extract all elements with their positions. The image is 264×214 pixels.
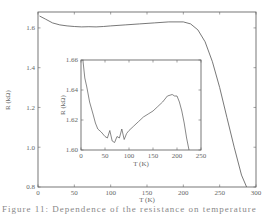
y-tick-label: 1.4 <box>26 64 35 72</box>
x-tick-label: 150 <box>148 152 159 160</box>
y-tick-label: 1.2 <box>26 104 35 112</box>
y-tick-label: 1.66 <box>66 56 79 64</box>
x-tick-label: 100 <box>105 189 116 197</box>
inset-y-axis-label: R (kΩ) <box>59 94 67 114</box>
x-tick-label: 200 <box>178 189 189 197</box>
chart-figure: 050100150200250300 0.81.01.21.41.6 T (K)… <box>0 0 264 214</box>
y-tick-label: 1.60 <box>66 146 79 154</box>
y-tick-label: 0.8 <box>26 183 35 191</box>
x-tick-label: 50 <box>102 152 110 160</box>
inset-x-axis-label: T (K) <box>133 160 149 168</box>
x-tick-label: 0 <box>36 189 40 197</box>
x-tick-label: 50 <box>71 189 79 197</box>
y-tick-label: 1.62 <box>66 116 79 124</box>
y-tick-label: 1.0 <box>26 144 35 152</box>
x-tick-label: 200 <box>172 152 183 160</box>
inset-background <box>81 60 201 150</box>
y-tick-label: 1.64 <box>66 86 79 94</box>
main-y-axis-label: R (kΩ) <box>4 89 12 109</box>
x-tick-label: 100 <box>124 152 135 160</box>
x-tick-label: 0 <box>79 152 83 160</box>
x-tick-label: 300 <box>251 189 262 197</box>
figure-caption: Figure 11: Dependence of the resistance … <box>2 204 257 214</box>
inset-plot: 050100150200250 1.601.621.641.66 T (K) R… <box>59 56 207 168</box>
x-tick-label: 250 <box>196 152 207 160</box>
main-x-axis-label: T (K) <box>139 196 155 204</box>
x-tick-label: 250 <box>214 189 225 197</box>
y-tick-label: 1.6 <box>26 24 35 32</box>
